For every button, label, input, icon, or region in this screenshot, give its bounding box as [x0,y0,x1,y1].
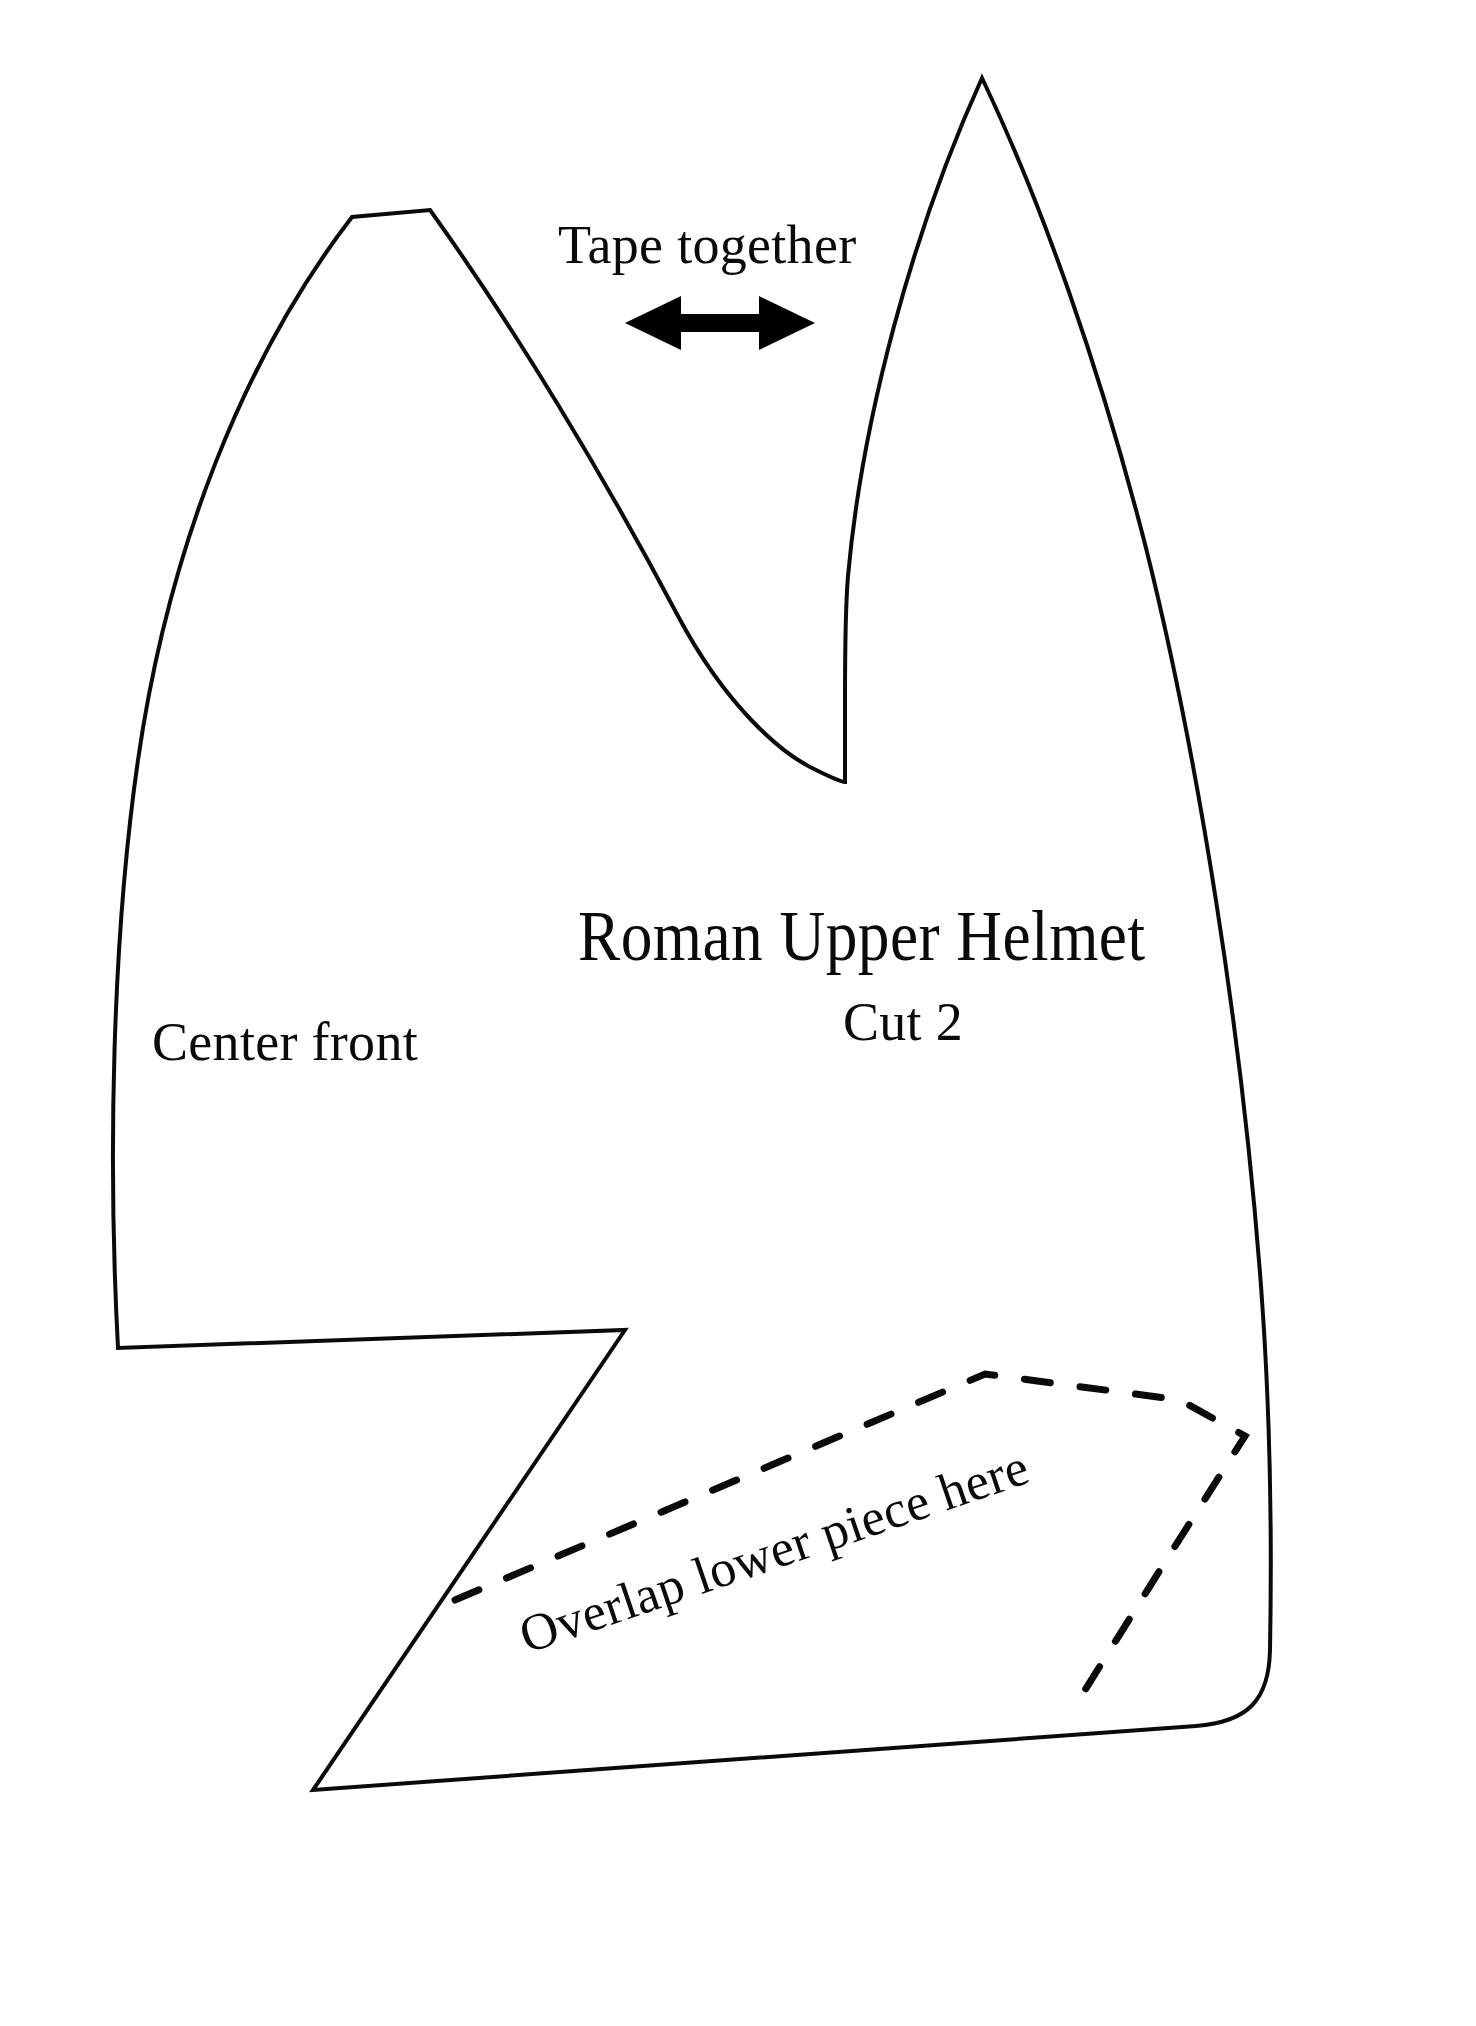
page-title: Roman Upper Helmet [578,900,1145,972]
pattern-sheet: Tape together Roman Upper Helmet Cut 2 C… [0,0,1476,2026]
double-headed-arrow-icon [625,296,815,350]
center-front-label: Center front [152,1015,418,1069]
cut-count-label: Cut 2 [843,995,963,1049]
tape-together-label: Tape together [558,218,856,272]
